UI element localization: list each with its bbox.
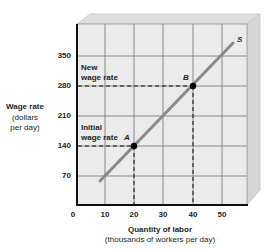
y-axis-subtitle-line2: per day)	[2, 123, 48, 132]
initial-wage-label-line1: Initial	[81, 123, 102, 133]
point-a-marker	[131, 143, 137, 149]
supply-curve-label: S	[237, 35, 242, 44]
x-tick-10: 10	[95, 210, 115, 219]
x-tick-50: 50	[212, 210, 232, 219]
point-b-marker	[190, 83, 196, 89]
y-tick-70: 70	[47, 171, 71, 180]
x-tick-0: 0	[63, 210, 83, 219]
x-tick-20: 20	[124, 210, 144, 219]
new-wage-label-line2: wage rate	[81, 73, 118, 83]
y-tick-280: 280	[47, 81, 71, 90]
y-axis-title: Wage rate	[2, 102, 48, 111]
y-tick-210: 210	[47, 111, 71, 120]
new-wage-label-line1: New	[81, 63, 97, 73]
point-a-label: A	[124, 133, 130, 142]
y-axis-subtitle-line1: (dollars	[2, 113, 48, 122]
x-tick-40: 40	[183, 210, 203, 219]
x-axis-title: Quantity of labor	[90, 225, 230, 234]
box-right-face	[247, 14, 260, 205]
box-top-face	[77, 14, 260, 24]
y-tick-140: 140	[47, 141, 71, 150]
x-tick-30: 30	[153, 210, 173, 219]
x-axis-subtitle: (thousands of workers per day)	[90, 235, 230, 244]
y-tick-350: 350	[47, 51, 71, 60]
point-b-label: B	[183, 73, 189, 82]
initial-wage-label-line2: wage rate	[81, 133, 118, 143]
